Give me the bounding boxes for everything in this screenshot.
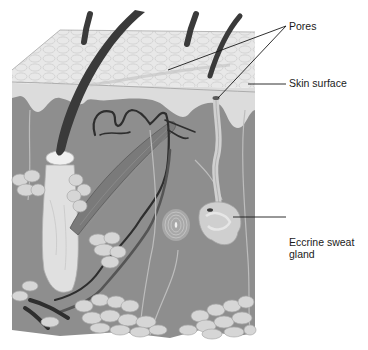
lamellated-corpuscle [162, 209, 190, 241]
epidermis-layer [12, 30, 255, 92]
label-pores: Pores [289, 20, 316, 32]
skin-cross-section-diagram [0, 0, 368, 350]
label-eccrine-sweat-gland: Eccrine sweat gland [289, 236, 368, 260]
label-skin-surface: Skin surface [289, 77, 347, 89]
